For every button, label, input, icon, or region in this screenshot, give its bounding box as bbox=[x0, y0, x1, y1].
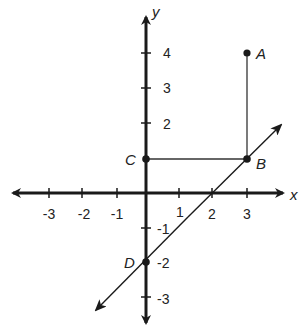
y-axis-label: y bbox=[151, 3, 161, 20]
x-axis bbox=[13, 188, 283, 198]
coordinate-plane: -3 -2 -1 1 2 3 4 3 2 -1 -2 -3 A B C D x … bbox=[0, 0, 302, 327]
point-B bbox=[243, 155, 251, 163]
x-tick-label: -3 bbox=[43, 206, 56, 222]
point-label-B: B bbox=[256, 155, 266, 172]
point-label-A: A bbox=[255, 45, 266, 62]
y-axis bbox=[141, 17, 151, 323]
y-tick-label: -2 bbox=[157, 255, 170, 271]
x-tick-label: -1 bbox=[111, 206, 124, 222]
x-tick-label: -2 bbox=[78, 206, 91, 222]
x-axis-label: x bbox=[289, 186, 298, 203]
y-tick-label: 2 bbox=[163, 116, 171, 132]
point-A bbox=[243, 49, 250, 56]
x-tick-label: 1 bbox=[176, 204, 184, 220]
line-DB bbox=[96, 125, 281, 310]
point-label-D: D bbox=[124, 254, 135, 271]
y-tick-label: -1 bbox=[157, 221, 170, 237]
point-D bbox=[142, 258, 150, 266]
point-C bbox=[142, 155, 150, 163]
x-tick-label: 2 bbox=[208, 206, 216, 222]
y-tick-label: -3 bbox=[157, 291, 170, 307]
y-tick-label: 3 bbox=[163, 80, 171, 96]
y-tick-label: 4 bbox=[163, 45, 171, 61]
point-label-C: C bbox=[125, 151, 136, 168]
x-tick-label: 3 bbox=[243, 206, 251, 222]
